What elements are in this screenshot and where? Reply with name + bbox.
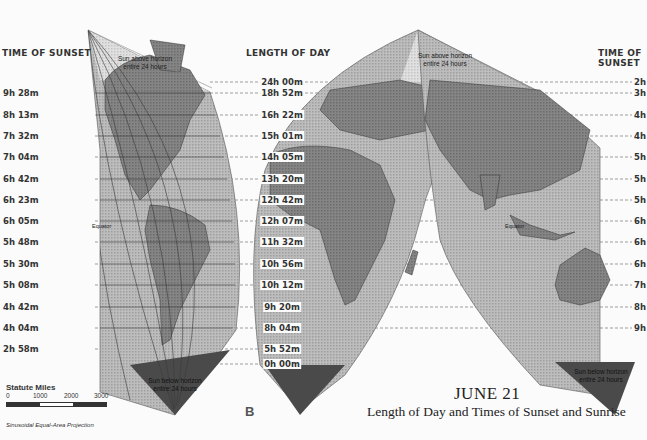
sunset-left-label: 4h 42m [2,302,40,312]
sunset-left-label: 5h 08m [2,280,40,290]
sunset-right-label: 6h [633,216,647,226]
sunset-left-label: 7h 32m [2,131,40,141]
equator-label-right: Equator [505,223,524,229]
sun-below-horizon-note-right: Sun below horizon entire 24 hours [565,368,637,384]
length-of-day-label: 16h 22m [260,110,304,120]
length-of-day-label: 9h 20m [263,302,301,312]
header-time-of-sunset-right: TIME OF SUNSET [598,48,644,68]
sunset-right-label: 9h [633,323,647,333]
scale-bar: Statute Miles 0 1000 2000 3000 [6,383,107,407]
sunset-left-label: 5h 48m [2,237,40,247]
note-line: entire 24 hours [140,385,210,393]
note-line: entire 24 hours [565,376,637,384]
sun-above-horizon-note-left: Sun above horizon entire 24 hours [100,55,190,71]
sunset-right-label: 6h [633,259,647,269]
sunset-right-label: 7h [633,280,647,290]
note-line: Sun above horizon [400,52,490,60]
map-subtitle: Length of Day and Times of Sunset and Su… [367,404,626,420]
sunset-right-label: 5h [633,152,647,162]
length-of-day-label: 8h 04m [263,323,301,333]
sunset-right-label: 6h [633,237,647,247]
note-line: entire 24 hours [100,63,190,71]
sun-above-horizon-note-right: Sun above horizon entire 24 hours [400,52,490,68]
length-of-day-label: 5h 52m [263,344,301,354]
scale-ticks: 0 1000 2000 3000 [6,392,106,402]
note-line: Sun below horizon [140,377,210,385]
header-length-of-day: LENGTH OF DAY [246,48,330,58]
length-of-day-label: 0h 00m [263,359,301,369]
length-of-day-label: 13h 20m [260,174,304,184]
sunset-right-label: 5h [633,195,647,205]
note-line: entire 24 hours [400,60,490,68]
note-line: Sun above horizon [100,55,190,63]
projection-label: Sinusoidal Equal-Area Projection [6,422,94,428]
length-of-day-label: 24h 00m [260,77,304,87]
sunset-left-label: 6h 42m [2,174,40,184]
scale-tick: 3000 [94,392,108,399]
length-of-day-label: 11h 32m [260,237,304,247]
plate-letter: B [245,404,254,419]
sunset-left-label: 4h 04m [2,323,40,333]
sunset-right-label: 4h [633,110,647,120]
sunset-left-label: 6h 05m [2,216,40,226]
sunset-right-label: 2h [633,77,647,87]
sunset-right-label: 3h [633,88,647,98]
scale-tick: 2000 [64,392,78,399]
map-title-date: JUNE 21 [454,384,520,404]
equator-label-left: Equator [92,223,111,229]
length-of-day-label: 10h 12m [260,280,304,290]
scale-graphic [6,402,107,407]
sunset-left-label: 2h 58m [2,344,40,354]
scale-title: Statute Miles [6,383,107,392]
sunset-left-label: 5h 30m [2,259,40,269]
length-of-day-label: 10h 56m [260,259,304,269]
sunset-right-label: 8h [633,302,647,312]
length-of-day-label: 12h 42m [260,195,304,205]
note-line: Sun below horizon [565,368,637,376]
sunset-left-label: 8h 13m [2,110,40,120]
scale-tick: 0 [6,392,10,399]
length-of-day-label: 18h 52m [260,88,304,98]
header-time-of-sunset-left: TIME OF SUNSET [2,48,91,58]
sunset-right-label: 4h [633,131,647,141]
sunset-left-label: 6h 23m [2,195,40,205]
sun-below-horizon-note-left: Sun below horizon entire 24 hours [140,377,210,393]
scale-tick: 1000 [33,392,47,399]
sunset-left-label: 9h 28m [2,88,40,98]
sunset-left-label: 7h 04m [2,152,40,162]
length-of-day-label: 14h 05m [260,152,304,162]
asia-australia-lobe [418,30,635,415]
sunset-right-label: 5h [633,174,647,184]
length-of-day-label: 12h 07m [260,216,304,226]
length-of-day-label: 15h 01m [260,131,304,141]
